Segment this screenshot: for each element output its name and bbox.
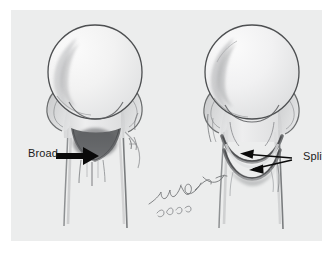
signature-name: M. Park [0, 0, 1, 1]
annotation-label-broad: Broad [28, 148, 58, 159]
anatomical-illustration-figure: Broad Split M. Park 2006 [0, 0, 334, 256]
pencil-drawing-artwork [11, 10, 322, 241]
signature-year: 2006 [0, 0, 1, 1]
drawing-paper-panel: Broad Split [11, 10, 322, 241]
annotation-label-split: Split [303, 151, 322, 162]
